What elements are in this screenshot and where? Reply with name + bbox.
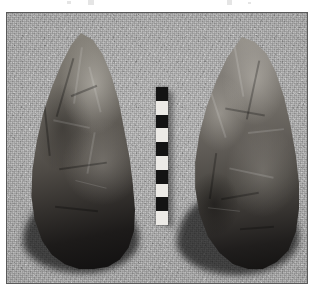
scale-bar-segment — [156, 101, 168, 115]
artifact-mark-4 — [248, 2, 251, 4]
flake-scar-shadow — [209, 153, 217, 199]
artifact-mark-3 — [227, 0, 232, 5]
artifact-mark-1 — [67, 1, 71, 4]
flake-scar — [248, 128, 284, 134]
photo-frame — [6, 12, 308, 284]
flake-scar — [208, 207, 240, 211]
flake-scar — [229, 167, 273, 178]
flake-scar-shadow — [59, 162, 106, 171]
scale-bar — [156, 87, 168, 225]
flake-scar — [86, 132, 95, 174]
artifact-mark-2 — [88, 0, 94, 5]
flake-scar-shadow — [55, 205, 98, 212]
flake-scar-shadow — [240, 226, 274, 230]
page-root — [0, 0, 319, 295]
scale-bar-segment — [156, 142, 168, 156]
flake-scar — [75, 180, 107, 189]
flake-scar — [53, 119, 89, 129]
scale-bar-segment — [156, 87, 168, 101]
flake-scar-shadow — [221, 191, 259, 200]
scale-bar-segment — [156, 211, 168, 225]
flake-scar — [233, 46, 244, 97]
flake-scar — [88, 66, 101, 112]
scale-bar-segment — [156, 115, 168, 129]
flake-scar-shadow — [225, 108, 265, 117]
scan-artifact-band — [0, 0, 319, 11]
scale-bar-segment — [156, 128, 168, 142]
flake-scar-shadow — [44, 104, 51, 156]
scale-bar-segment — [156, 156, 168, 170]
scale-bar-segment — [156, 184, 168, 198]
scale-bar-segment — [156, 170, 168, 184]
scale-bar-segment — [156, 197, 168, 211]
